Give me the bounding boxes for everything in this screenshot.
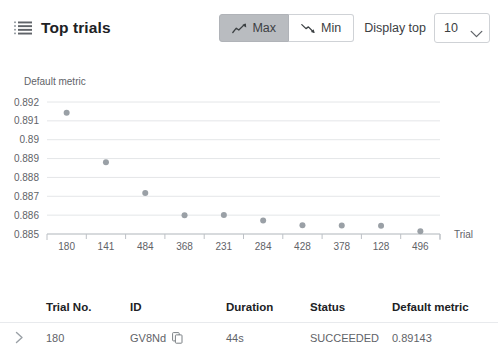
- chart-y-tick: 0.89: [20, 134, 40, 145]
- max-button-label: Max: [252, 21, 276, 35]
- chart-data-point[interactable]: [299, 222, 305, 228]
- min-button[interactable]: Min: [289, 14, 354, 42]
- cell-id-text: GV8Nd: [130, 332, 166, 344]
- table-header-trial-no: Trial No.: [46, 301, 130, 313]
- chart-x-tick: 141: [98, 241, 115, 252]
- status-badge: SUCCEEDED: [310, 332, 392, 344]
- chart-data-point[interactable]: [339, 223, 345, 229]
- chart-x-axis-title: Trial: [454, 229, 473, 240]
- chart-y-tick: 0.891: [14, 115, 39, 126]
- cell-id: GV8Nd: [130, 332, 226, 344]
- top-trials-chart: Default metric 0.8920.8910.890.8890.8880…: [0, 58, 498, 263]
- table-header-row: Trial No. ID Duration Status Default met…: [0, 292, 498, 322]
- chart-x-tick: 231: [216, 241, 233, 252]
- table-header-duration: Duration: [226, 301, 310, 313]
- row-expand-button[interactable]: [14, 331, 46, 344]
- cell-trial-no: 180: [46, 332, 130, 344]
- table-header-status: Status: [310, 301, 392, 313]
- chart-x-tick: 378: [333, 241, 350, 252]
- chart-data-point[interactable]: [260, 218, 266, 224]
- display-top-select[interactable]: 10: [434, 13, 490, 43]
- max-button[interactable]: Max: [219, 14, 289, 42]
- chart-y-tick: 0.892: [14, 97, 39, 108]
- cell-default-metric: 0.89143: [392, 332, 488, 344]
- chart-data-point[interactable]: [103, 159, 109, 165]
- table-row[interactable]: 180 GV8Nd 44s SUCCEEDED 0.89143: [0, 322, 498, 352]
- top-trials-header: Top trials Max Min Display top 10: [0, 0, 498, 56]
- chart-data-point[interactable]: [142, 190, 148, 196]
- chart-y-tick: 0.886: [14, 210, 39, 221]
- chart-x-tick: 128: [373, 241, 390, 252]
- chevron-down-icon: [470, 24, 483, 32]
- chevron-right-icon: [14, 331, 25, 344]
- trend-up-icon: [232, 23, 247, 34]
- chart-y-tick: 0.888: [14, 172, 39, 183]
- list-icon: [14, 21, 32, 35]
- chart-x-tick: 428: [294, 241, 311, 252]
- page-title: Top trials: [41, 19, 111, 37]
- cell-duration: 44s: [226, 332, 310, 344]
- chart-x-tick: 484: [137, 241, 154, 252]
- display-top-label: Display top: [364, 21, 426, 35]
- chart-data-point[interactable]: [378, 223, 384, 229]
- chart-svg[interactable]: 0.8920.8910.890.8890.8880.8870.8860.8851…: [0, 58, 498, 263]
- chart-data-point[interactable]: [182, 212, 188, 218]
- chart-x-tick: 368: [176, 241, 193, 252]
- chart-y-tick: 0.885: [14, 229, 39, 240]
- chart-x-tick: 284: [255, 241, 272, 252]
- table-header-default-metric: Default metric: [392, 301, 488, 313]
- chart-data-point[interactable]: [64, 110, 70, 116]
- header-controls: Max Min Display top 10: [219, 13, 490, 43]
- chart-data-point[interactable]: [221, 212, 227, 218]
- trend-down-icon: [301, 23, 316, 34]
- min-button-label: Min: [321, 21, 341, 35]
- chart-data-point[interactable]: [417, 228, 423, 234]
- title-group: Top trials: [14, 19, 111, 37]
- chart-x-tick: 496: [412, 241, 429, 252]
- display-top-value: 10: [444, 21, 458, 35]
- chart-y-tick: 0.889: [14, 153, 39, 164]
- trials-table: Trial No. ID Duration Status Default met…: [0, 292, 498, 352]
- table-header-id: ID: [130, 301, 226, 313]
- copy-icon[interactable]: [172, 332, 183, 344]
- chart-y-tick: 0.887: [14, 191, 39, 202]
- chart-x-tick: 180: [58, 241, 75, 252]
